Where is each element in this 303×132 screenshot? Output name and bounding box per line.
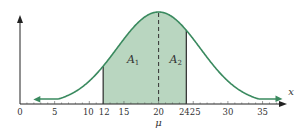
x-tick-label: 25	[190, 107, 201, 117]
x-tick-label: 5	[52, 107, 57, 117]
x-tick-label: 35	[257, 107, 268, 117]
curve-right-arrow-icon	[275, 96, 282, 103]
curve-left-arrow-icon	[33, 96, 40, 103]
x-tick-label: 24	[179, 107, 190, 117]
x-axis-arrow-icon	[279, 101, 287, 107]
x-axis-label: x	[288, 86, 294, 97]
x-tick-label: 15	[119, 107, 130, 117]
x-tick-label: 10	[83, 107, 94, 117]
x-tick-label: 12	[99, 107, 110, 117]
x-tick-label: 30	[222, 107, 233, 117]
x-tick-label: 20	[153, 107, 164, 117]
y-axis-arrow-icon	[17, 15, 23, 23]
x-tick-label: 0	[17, 107, 22, 117]
mean-label: μ	[155, 117, 162, 128]
normal-distribution-chart: 051012152024253035μxA1A2	[0, 0, 303, 132]
